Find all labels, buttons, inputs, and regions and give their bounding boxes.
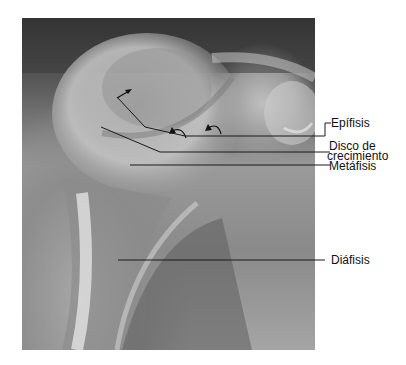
epifisis-leader-line [117,97,331,136]
disco-leader-line [101,127,330,152]
label-epifisis: Epífisis [331,117,370,129]
label-metafisis: Metáfisis [329,160,376,172]
leader-lines [0,0,406,365]
label-diafisis: Diáfisis [331,254,370,266]
